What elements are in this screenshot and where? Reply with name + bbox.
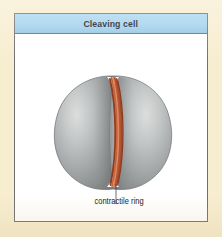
page-title: Cleaving cell — [84, 18, 139, 29]
left-daughter-lobe — [54, 74, 115, 194]
contractile-ring-label: contractile ring — [25, 196, 198, 206]
diagram-area: contractile ring — [15, 34, 207, 222]
cleaving-cell-illustration — [15, 34, 207, 222]
panel-header: Cleaving cell — [15, 14, 207, 34]
figure-panel: Cleaving cell — [14, 13, 208, 222]
figure-root: Cleaving cell — [0, 0, 222, 237]
